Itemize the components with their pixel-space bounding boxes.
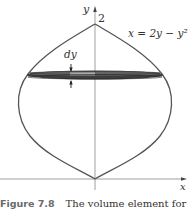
figure-caption: Figure 7.8The volume element for bbox=[0, 198, 186, 209]
top-value-label: 2 bbox=[98, 12, 105, 25]
figure-caption-text: The volume element for bbox=[66, 198, 187, 209]
thickness-label: dy bbox=[64, 48, 77, 60]
dy-arrow-up-icon bbox=[69, 80, 72, 85]
solid-outline-right bbox=[95, 24, 172, 179]
y-axis-label: y bbox=[83, 3, 89, 16]
disk-element bbox=[27, 71, 163, 80]
solid-outline-left bbox=[18, 24, 95, 179]
figure-number: Figure 7.8 bbox=[0, 198, 55, 209]
y-axis-arrow-icon bbox=[93, 6, 97, 12]
curve-equation-label: x = 2y − y² bbox=[128, 27, 188, 39]
x-axis-label: x bbox=[180, 181, 186, 192]
